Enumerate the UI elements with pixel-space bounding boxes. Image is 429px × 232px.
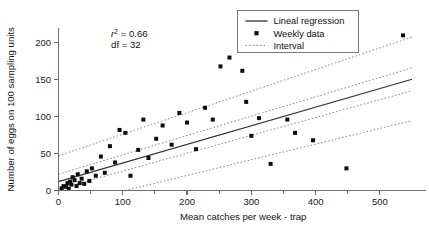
x-tick-label-0: 0	[56, 196, 61, 207]
interval-lower-line	[125, 121, 412, 191]
x-tick-label-400: 400	[308, 196, 324, 207]
data-point	[118, 128, 122, 132]
data-point	[269, 162, 273, 166]
y-tick-label-200: 200	[35, 37, 51, 48]
annotations-group: r2 = 0.66df = 32	[111, 27, 148, 50]
data-point	[141, 118, 145, 122]
x-tick-label-500: 500	[372, 196, 388, 207]
data-point	[227, 56, 231, 60]
data-point	[90, 166, 94, 170]
data-point	[244, 100, 248, 104]
data-point	[108, 144, 112, 148]
data-point	[161, 124, 165, 128]
legend-label-weekly-data: Weekly data	[274, 29, 326, 39]
axes-group: 0501001502000100200300400500Mean catches…	[5, 27, 426, 222]
data-point	[249, 134, 253, 138]
regression-line-group	[59, 79, 413, 181]
data-point	[94, 174, 98, 178]
data-point	[80, 177, 84, 181]
x-tick-label-300: 300	[243, 196, 259, 207]
data-point	[128, 174, 132, 178]
data-point	[78, 181, 82, 185]
data-point	[154, 137, 158, 141]
regression-line	[59, 79, 413, 181]
data-point	[257, 116, 261, 120]
data-point	[123, 131, 127, 135]
interval-upper-line	[59, 37, 413, 156]
interval-bands	[59, 37, 413, 190]
chart-canvas: 0501001502000100200300400500Mean catches…	[0, 0, 429, 232]
y-tick-label-0: 0	[46, 185, 51, 196]
interval-inner-lower-line	[59, 91, 413, 189]
legend-label-lineal-regression: Lineal regression	[274, 16, 345, 26]
data-point	[218, 64, 222, 68]
data-point	[185, 121, 189, 125]
data-point	[136, 148, 140, 152]
data-point	[344, 166, 348, 170]
scatter-plot-figure: 0501001502000100200300400500Mean catches…	[0, 0, 429, 232]
x-tick-label-100: 100	[115, 196, 131, 207]
data-point	[99, 155, 103, 159]
data-point	[285, 118, 289, 122]
y-axis-title: Number of eggs on 100 sampling units	[5, 27, 16, 191]
data-point	[87, 179, 91, 183]
annotation-r-squared: r2 = 0.66	[111, 27, 148, 39]
y-tick-label-100: 100	[35, 111, 51, 122]
data-point	[76, 172, 80, 176]
data-point	[82, 182, 86, 186]
y-tick-label-50: 50	[40, 148, 51, 159]
data-point	[203, 106, 207, 110]
data-point	[73, 178, 77, 182]
data-point	[194, 147, 198, 151]
x-axis-title: Mean catches per week - trap	[180, 211, 306, 222]
data-point	[146, 156, 150, 160]
data-point	[311, 138, 315, 142]
data-point	[401, 33, 405, 37]
data-point	[69, 183, 73, 187]
data-point	[113, 160, 117, 164]
data-point	[103, 171, 107, 175]
data-point	[177, 111, 181, 115]
interval-inner-upper-line	[59, 68, 413, 174]
data-point	[293, 131, 297, 135]
y-tick-label-150: 150	[35, 74, 51, 85]
legend-label-interval: Interval	[274, 41, 305, 51]
annotation-df: df = 32	[111, 39, 141, 50]
data-point	[211, 118, 215, 122]
data-point	[240, 69, 244, 73]
data-point	[170, 143, 174, 147]
x-tick-label-200: 200	[179, 196, 195, 207]
legend-swatch-weekly-data	[254, 31, 258, 35]
legend-group[interactable]: Lineal regressionWeekly dataInterval	[238, 11, 359, 53]
data-point	[85, 169, 89, 173]
